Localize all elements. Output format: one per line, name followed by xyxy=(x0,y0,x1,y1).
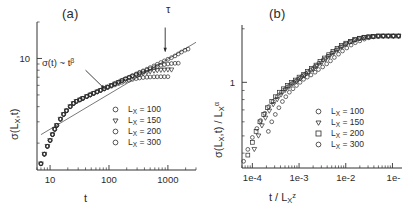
legend-marker-circle xyxy=(111,105,120,114)
panel-b-xaxis-title: t / LXz xyxy=(269,191,296,205)
legend-swatch xyxy=(109,116,121,125)
data-point xyxy=(166,62,170,66)
legend-marker-circle xyxy=(111,138,120,147)
x-tick-label: 1e-2 xyxy=(336,172,355,183)
x-tick-label: 1e-3 xyxy=(290,172,309,183)
panel-a-yaxis-title: σ(LX,t) xyxy=(8,109,22,140)
data-point xyxy=(255,127,259,131)
legend-item-b-4[interactable]: LX = 300 xyxy=(312,139,364,150)
data-point xyxy=(250,140,254,144)
panel-a-legend: LX = 100LX = 150LX = 200LX = 300 xyxy=(109,104,161,148)
data-point xyxy=(337,52,341,56)
yaxis-sigma-a: σ(L xyxy=(8,123,20,140)
data-point xyxy=(325,62,329,66)
annotation-arrow-head xyxy=(164,48,167,52)
data-point xyxy=(332,56,336,60)
legend-item-a-2[interactable]: LX = 150 xyxy=(109,115,161,126)
y-tick-label: 1 xyxy=(230,77,235,88)
legend-label: LX = 100 xyxy=(128,104,161,115)
legend-label: LX = 150 xyxy=(128,115,161,126)
data-point xyxy=(281,100,285,104)
data-point xyxy=(260,124,265,128)
yaxis-tail-b: ,t) / L xyxy=(212,111,224,136)
legend-marker-circle xyxy=(314,107,323,116)
annotation-beta-exponent: β xyxy=(70,57,74,64)
yaxis-sigma-b: σ(L xyxy=(212,141,224,158)
data-point xyxy=(252,147,257,151)
legend-swatch xyxy=(312,140,324,149)
data-point xyxy=(270,120,274,124)
legend-item-a-1[interactable]: LX = 100 xyxy=(109,104,161,115)
data-point xyxy=(250,136,254,140)
legend-label: LX = 200 xyxy=(128,126,161,137)
panel-a-xaxis-title: t xyxy=(84,192,87,204)
legend-swatch xyxy=(109,105,121,114)
legend-swatch xyxy=(109,138,121,147)
data-point xyxy=(256,134,261,138)
annotation-power-law: σ(t) ~ tβ xyxy=(42,57,74,68)
xaxis-z-exponent: z xyxy=(292,191,296,200)
annotation-tau: τ xyxy=(166,3,170,15)
panel-b-label: (b) xyxy=(269,6,286,21)
legend-swatch xyxy=(109,127,121,136)
data-point xyxy=(341,49,345,53)
legend-label: LX = 100 xyxy=(331,106,364,117)
data-point xyxy=(246,153,250,157)
figure-container: 10100100010 (a) t σ(LX,t) σ(t) ~ tβ τ LX… xyxy=(0,0,413,216)
x-tick-label: 10 xyxy=(45,174,56,185)
x-tick-label: 1000 xyxy=(157,174,178,185)
legend-item-b-1[interactable]: LX = 100 xyxy=(312,106,364,117)
yaxis-sub2-b: X xyxy=(217,106,226,111)
legend-label: LX = 300 xyxy=(128,137,161,148)
legend-label: LX = 300 xyxy=(331,139,364,150)
data-point xyxy=(273,113,277,117)
data-point xyxy=(287,90,291,94)
data-point xyxy=(263,111,267,115)
panel-b-yaxis-title: σ(LX,t) / LXα xyxy=(212,102,226,158)
legend-marker-circle xyxy=(314,140,323,149)
yaxis-sub-a: X xyxy=(13,118,22,123)
legend-item-a-4[interactable]: LX = 300 xyxy=(109,137,161,148)
panel-a-label: (a) xyxy=(62,6,79,21)
data-point xyxy=(263,116,268,120)
data-point xyxy=(169,68,174,72)
panel-a: 10100100010 (a) t σ(LX,t) σ(t) ~ tβ τ LX… xyxy=(0,0,207,216)
data-point xyxy=(291,87,295,91)
legend-item-a-3[interactable]: LX = 200 xyxy=(109,126,161,137)
data-point xyxy=(277,106,281,110)
x-tick-label: 100 xyxy=(101,174,117,185)
panel-b-plot: 1e-41e-31e-21e-1 xyxy=(206,0,413,216)
legend-marker-triangle-down xyxy=(314,118,323,127)
data-point xyxy=(284,95,288,99)
legend-marker-triangle-down xyxy=(111,116,120,125)
legend-label: LX = 150 xyxy=(331,117,364,128)
legend-marker-circle xyxy=(111,127,120,136)
data-point xyxy=(246,147,250,151)
annotation-power-law-text: σ(t) ~ t xyxy=(42,57,70,68)
yaxis-alpha-exponent: α xyxy=(212,102,221,106)
x-tick-label: 1e- xyxy=(387,172,401,183)
legend-swatch xyxy=(312,118,324,127)
data-point xyxy=(131,74,135,78)
yaxis-tail-a: ,t) xyxy=(8,109,20,119)
legend-item-b-2[interactable]: LX = 150 xyxy=(312,117,364,128)
y-tick-label: 10 xyxy=(19,53,30,64)
legend-item-b-3[interactable]: LX = 200 xyxy=(312,128,364,139)
panel-a-plot: 10100100010 xyxy=(0,0,207,216)
data-point xyxy=(329,59,333,63)
panel-b-legend: LX = 100LX = 150LX = 200LX = 300 xyxy=(312,106,364,150)
panel-b: 1e-41e-31e-21e-1 (b) t / LXz σ(LX,t) / L… xyxy=(206,0,413,216)
annotation-arrow-shaft xyxy=(86,70,105,88)
data-point xyxy=(266,129,270,133)
legend-label: LX = 200 xyxy=(331,128,364,139)
yaxis-sub-b: X xyxy=(217,136,226,141)
data-point xyxy=(267,105,271,109)
legend-swatch xyxy=(312,129,324,138)
xaxis-t-over-l: t / L xyxy=(269,191,287,203)
x-tick-label: 1e-4 xyxy=(243,172,262,183)
data-point xyxy=(295,84,299,88)
legend-marker-square xyxy=(314,129,323,138)
legend-swatch xyxy=(312,107,324,116)
